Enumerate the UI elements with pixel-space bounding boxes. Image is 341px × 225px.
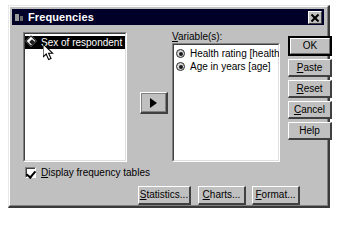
nominal-variable-icon — [27, 37, 38, 48]
cancel-button[interactable]: Cancel — [288, 101, 332, 119]
paste-button-label-rest: aste — [303, 62, 322, 73]
target-variable-list-inner: Health rating [health] Age in years [age… — [173, 44, 279, 161]
source-variable-list[interactable]: Sex of respondent [sex] — [23, 32, 127, 162]
scale-variable-icon — [176, 61, 187, 72]
variable-label: Age in years [age] — [190, 61, 271, 73]
list-item[interactable]: Age in years [age] — [174, 60, 278, 73]
charts-button-label-rest: harts... — [210, 189, 241, 200]
reset-button-label-rest: eset — [304, 83, 323, 94]
help-button[interactable]: Help — [288, 122, 332, 140]
statistics-button-label-rest: tatistics... — [146, 189, 188, 200]
ok-button-label: OK — [290, 38, 330, 54]
source-variable-list-inner: Sex of respondent [sex] — [24, 33, 126, 161]
variables-label-rest: ariable(s): — [178, 31, 222, 42]
display-frequency-tables-row[interactable]: Display frequency tables — [25, 167, 150, 178]
scale-variable-icon — [176, 48, 187, 59]
window-title: Frequencies — [28, 11, 308, 24]
format-button[interactable]: Format... — [252, 186, 300, 205]
display-frequency-tables-label: Display frequency tables — [41, 167, 150, 178]
close-icon[interactable] — [308, 11, 322, 24]
display-frequency-tables-checkbox[interactable] — [25, 167, 36, 178]
variables-label: Variable(s): — [172, 31, 222, 42]
variable-label: Sex of respondent [sex] — [41, 37, 127, 49]
ok-button[interactable]: OK — [288, 36, 332, 56]
reset-button[interactable]: Reset — [288, 80, 332, 98]
title-bar[interactable]: Frequencies — [12, 9, 324, 25]
screenshot-root: Frequencies Sex of respondent [sex] Vari… — [0, 0, 341, 225]
frequencies-dialog: Frequencies Sex of respondent [sex] Vari… — [8, 5, 330, 208]
move-right-arrow-icon — [141, 93, 166, 112]
move-right-arrow-button[interactable] — [140, 92, 168, 114]
charts-button[interactable]: Charts... — [198, 186, 246, 205]
list-item[interactable]: Health rating [health] — [174, 47, 278, 60]
spss-dialog-icon — [14, 12, 25, 23]
display-frequency-tables-label-rest: isplay frequency tables — [48, 167, 150, 178]
format-button-label-rest: ormat... — [262, 189, 296, 200]
list-item[interactable]: Sex of respondent [sex] — [25, 36, 125, 49]
cancel-button-label-rest: ancel — [301, 104, 325, 115]
target-variable-list[interactable]: Health rating [health] Age in years [age… — [172, 43, 280, 162]
statistics-button[interactable]: Statistics... — [138, 186, 191, 205]
paste-button[interactable]: Paste — [288, 59, 332, 77]
variable-label: Health rating [health] — [190, 48, 280, 60]
